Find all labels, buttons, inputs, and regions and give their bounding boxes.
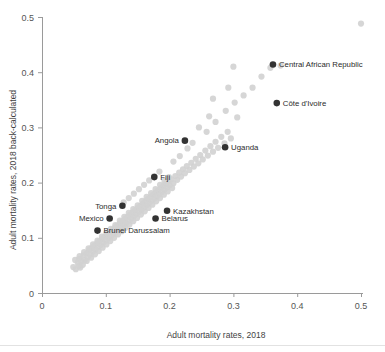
highlighted-data-point [151,174,158,181]
data-point [241,92,247,98]
highlighted-data-point [164,207,171,214]
scatter-chart-figure: 00.10.20.30.40.500.10.20.30.40.5 Central… [0,0,385,352]
point-label-belarus: Belarus [162,214,189,223]
data-point [225,85,231,91]
data-point [189,140,195,146]
data-point [131,191,137,197]
data-point [258,74,264,80]
data-point [205,152,211,158]
data-point [210,96,216,102]
y-tick-label: 0.5 [21,13,34,23]
data-point [230,64,236,70]
y-tick-label: 0.2 [21,178,34,188]
point-label-fiji: Fiji [160,173,170,182]
highlighted-data-point [152,215,159,222]
chart-canvas: 00.10.20.30.40.500.10.20.30.40.5 Central… [0,0,385,352]
highlighted-data-point [119,202,126,209]
data-point [234,114,240,120]
data-point [218,134,224,140]
y-axis-title: Adult mortality rates, 2018 back-calcula… [8,90,18,250]
data-point [136,186,142,192]
data-point [200,156,206,162]
data-point [232,99,238,105]
x-tick-label: 0.5 [355,301,368,311]
data-point [196,124,202,130]
x-tick-label: 0 [39,301,44,311]
data-point [204,129,210,135]
data-point [225,129,231,135]
x-tick-label: 0.4 [291,301,304,311]
data-point [184,145,190,151]
data-point [358,21,364,27]
point-label-angola: Angola [155,136,180,145]
highlighted-data-point [273,100,280,107]
highlighted-data-point [106,215,113,222]
y-tick-label: 0.1 [21,233,34,243]
data-point [126,195,132,201]
data-point [249,85,255,91]
data-point [212,139,218,145]
point-label-brunei-darussalam: Brunei Darussalam [104,226,170,235]
data-point [228,135,234,141]
highlighted-data-point [94,227,101,234]
y-tick-label: 0 [29,289,34,299]
data-point [169,185,175,191]
highlighted-data-point [222,144,229,151]
x-axis-title: Adult mortality rates, 2018 [167,330,266,340]
point-label-tonga: Tonga [95,202,117,211]
highlighted-data-point [182,137,189,144]
data-point [210,149,216,155]
data-point [177,153,183,159]
data-point [223,108,229,114]
x-tick-label: 0.1 [100,301,113,311]
chart-background [0,0,385,352]
data-point [212,119,218,125]
data-point [215,145,221,151]
data-point [207,143,213,149]
y-tick-label: 0.3 [21,123,34,133]
highlighted-data-point [270,61,277,68]
x-tick-label: 0.2 [163,301,176,311]
x-tick-label: 0.3 [227,301,240,311]
point-label-uganda: Uganda [231,143,259,152]
point-label-c-te-d-ivoire: Côte d'Ivoire [283,99,327,108]
y-tick-label: 0.4 [21,68,34,78]
data-point [141,182,147,188]
point-label-central-african-republic: Central African Republic [279,60,363,69]
data-point [206,113,212,119]
data-point [152,186,158,192]
data-point [170,159,176,165]
point-label-mexico: Mexico [79,214,104,223]
data-point [135,202,141,208]
